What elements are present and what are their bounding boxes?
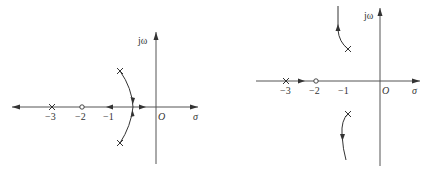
locus-arrow-icon	[336, 24, 341, 31]
root-locus-left: jω σ O −3 −2 −1	[0, 0, 214, 174]
root-locus-left-plot: jω σ O −3 −2 −1	[0, 0, 214, 174]
tick-minus-2: −2	[309, 85, 320, 96]
locus-branch-lower	[120, 107, 133, 143]
locus-branch-upper	[338, 6, 348, 49]
origin-label: O	[382, 85, 389, 96]
locus-arrow-icon	[340, 134, 345, 141]
sigma-label: σ	[193, 111, 199, 122]
locus-arrow-icon	[131, 110, 135, 117]
tick-minus-1: −1	[103, 111, 114, 122]
tick-minus-3: −3	[45, 111, 56, 122]
jw-arrowhead-icon	[154, 32, 159, 40]
left-arrowhead-icon	[12, 105, 20, 110]
tick-minus-2: −2	[75, 111, 86, 122]
tick-minus-1: −1	[338, 85, 349, 96]
locus-arrow-icon	[298, 79, 305, 84]
sigma-arrowhead-icon	[412, 79, 420, 84]
jw-label: jω	[137, 35, 148, 46]
tick-minus-3: −3	[280, 85, 291, 96]
sigma-label: σ	[412, 85, 418, 96]
zero-marker-icon	[80, 105, 84, 109]
origin-label: O	[158, 111, 165, 122]
sigma-arrowhead-icon	[190, 105, 198, 110]
locus-arrow-icon	[139, 105, 146, 110]
zero-marker-icon	[314, 79, 318, 83]
locus-arrow-icon	[131, 97, 136, 104]
jw-arrowhead-icon	[378, 8, 383, 16]
jw-label: jω	[363, 10, 374, 21]
locus-branch-upper	[120, 71, 133, 107]
root-locus-right-plot: jω σ O −3 −2 −1	[214, 0, 428, 174]
root-locus-right: jω σ O −3 −2 −1	[214, 0, 428, 174]
locus-arrow-icon	[106, 105, 113, 110]
